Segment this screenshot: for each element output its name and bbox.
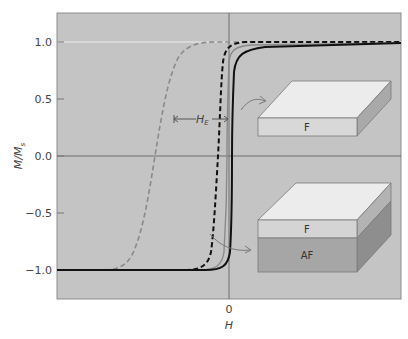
y-tick-label-0.5: 0.5 [35,93,53,106]
y-axis-label: M/Ms [12,142,27,169]
svg-text:M/Ms: M/Ms [12,142,27,169]
inset-f-label: F [304,122,310,133]
x-axis-label: H [225,319,233,332]
inset-bilayer-f-label: F [304,224,310,235]
x-tick-label-0: 0 [226,303,233,316]
y-tick-label-neg1: −1.0 [25,264,52,277]
hysteresis-figure: 1.0 0.5 0.0 −0.5 −1.0 M/Ms 0 H HE F [0,0,408,339]
y-tick-label-neg0.5: −0.5 [25,207,52,220]
y-tick-label-0: 0.0 [35,150,53,163]
inset-bilayer-af-label: AF [301,250,314,261]
y-tick-label-1: 1.0 [35,36,53,49]
